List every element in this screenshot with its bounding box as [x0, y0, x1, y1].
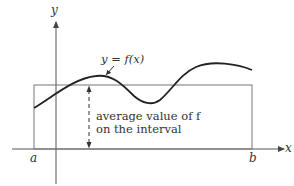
function-curve — [34, 63, 252, 108]
x-axis-label: x — [285, 141, 292, 155]
arrow-down-head — [87, 142, 92, 149]
curve-label: y = f(x) — [100, 52, 144, 66]
interval-left-label: a — [30, 151, 37, 165]
arrow-up-head — [87, 86, 92, 93]
annotation-line-1: average value of f — [96, 109, 201, 123]
label-pointer-arrow — [106, 66, 114, 75]
y-axis-label: y — [50, 3, 58, 17]
average-value-diagram: y x a b y = f(x) average value of f on t… — [0, 0, 294, 186]
annotation-line-2: on the interval — [96, 122, 182, 136]
interval-right-label: b — [249, 151, 257, 165]
